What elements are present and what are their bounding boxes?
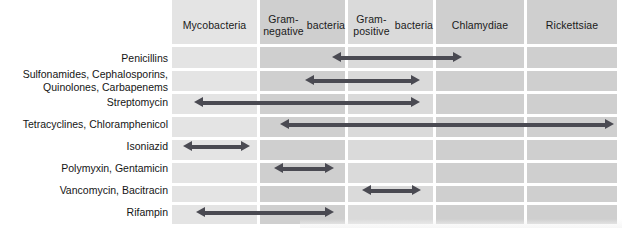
arrow-shaft: [339, 56, 455, 60]
row-label-line: Vancomycin, Bacitracin: [60, 184, 168, 196]
row-label-sulfonamides: Sulfonamides, Cephalosporins,Quinolones,…: [0, 68, 168, 93]
spectrum-arrow-streptomycin: [194, 97, 420, 108]
arrow-head-right-icon: [325, 163, 334, 173]
horizontal-separator-4: [172, 137, 617, 140]
arrow-head-right-icon: [411, 75, 420, 85]
bottom-edge-artifact: [300, 219, 622, 228]
row-label-line: Polymyxin, Gentamicin: [61, 162, 168, 174]
arrow-head-right-icon: [412, 185, 421, 195]
arrow-shaft: [281, 167, 327, 171]
row-label-rifampin: Rifampin: [0, 206, 168, 219]
spectrum-arrow-rifampin: [196, 207, 334, 218]
column-header-line: bacteria: [395, 19, 433, 31]
spectrum-arrow-tetracyclines: [280, 119, 614, 130]
column-header-mycobacteria: Mycobacteria: [172, 8, 257, 42]
horizontal-separator-7: [172, 202, 617, 205]
arrow-head-right-icon: [411, 97, 420, 107]
arrow-head-right-icon: [325, 207, 334, 217]
column-header-line: Mycobacteria: [183, 19, 247, 31]
arrow-head-right-icon: [605, 119, 614, 129]
row-label-line: Tetracyclines, Chloramphenicol: [23, 118, 168, 130]
arrow-shaft: [369, 189, 414, 193]
column-header-line: Chlamydiae: [452, 19, 508, 31]
arrow-head-right-icon: [453, 52, 462, 62]
arrow-shaft: [203, 211, 327, 215]
column-header-line: Gram-negative: [260, 13, 307, 37]
antimicrobial-spectrum-figure: MycobacteriaGram-negativebacteriaGram-po…: [0, 0, 622, 230]
spectrum-arrow-polymyxin: [274, 163, 334, 174]
spectrum-arrow-vancomycin: [362, 185, 421, 196]
column-header-gram-negative: Gram-negativebacteria: [260, 8, 345, 42]
row-label-tetracyclines: Tetracyclines, Chloramphenicol: [0, 118, 168, 131]
arrow-shaft: [312, 79, 413, 83]
row-label-line: Isoniazid: [127, 140, 168, 152]
spectrum-arrow-isoniazid: [183, 141, 250, 152]
row-label-penicillins: Penicillins: [0, 52, 168, 65]
arrow-shaft: [287, 123, 607, 127]
row-label-streptomycin: Streptomycin: [0, 96, 168, 109]
spectrum-arrow-penicillins: [332, 52, 462, 63]
column-header-gram-positive: Gram-positivebacteria: [348, 8, 433, 42]
horizontal-separator-2: [172, 91, 617, 94]
row-label-polymyxin: Polymyxin, Gentamicin: [0, 162, 168, 175]
column-header-line: Rickettsiae: [546, 19, 598, 31]
column-header-rickettsiae: Rickettsiae: [527, 8, 617, 42]
row-label-isoniazid: Isoniazid: [0, 140, 168, 153]
row-label-line: Quinolones, Carbapenems: [43, 81, 168, 93]
spectrum-arrow-sulfonamides: [305, 75, 420, 86]
row-label-line: Penicillins: [121, 52, 168, 64]
row-label-vancomycin: Vancomycin, Bacitracin: [0, 184, 168, 197]
horizontal-separator-5: [172, 160, 617, 163]
arrow-head-right-icon: [241, 141, 250, 151]
horizontal-separator-0: [172, 44, 617, 47]
row-label-line: Rifampin: [127, 206, 168, 218]
column-header-chlamydiae: Chlamydiae: [436, 8, 524, 42]
arrow-shaft: [190, 145, 243, 149]
row-label-line: Sulfonamides, Cephalosporins,: [23, 68, 168, 80]
column-header-line: bacteria: [307, 19, 345, 31]
horizontal-separator-3: [172, 114, 617, 117]
column-header-line: Gram-positive: [348, 13, 395, 37]
horizontal-separator-1: [172, 68, 617, 71]
arrow-shaft: [201, 101, 413, 105]
row-label-line: Streptomycin: [107, 96, 168, 108]
